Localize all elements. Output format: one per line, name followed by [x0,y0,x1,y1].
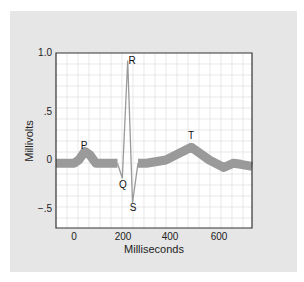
y-axis-label: Millivolts [23,120,35,162]
y-tick-1.0: 1.0 [38,47,52,58]
ecg-chart: 1.0 .5 0 −.5 0 200 400 600 Milliseconds … [0,0,304,282]
x-tick-600: 600 [211,231,228,242]
label-s-wave: S [130,202,137,213]
x-tick-0: 0 [71,231,77,242]
label-p-wave: P [81,140,88,151]
label-t-wave: T [188,130,194,141]
y-tick-0.5: .5 [44,106,53,117]
label-q-wave: Q [119,179,127,190]
x-axis-label: Milliseconds [124,243,184,255]
x-tick-400: 400 [162,231,179,242]
label-r-wave: R [128,55,135,66]
x-tick-200: 200 [115,231,132,242]
y-tick-minus-0.5: −.5 [38,203,53,214]
y-tick-0: 0 [46,154,52,165]
